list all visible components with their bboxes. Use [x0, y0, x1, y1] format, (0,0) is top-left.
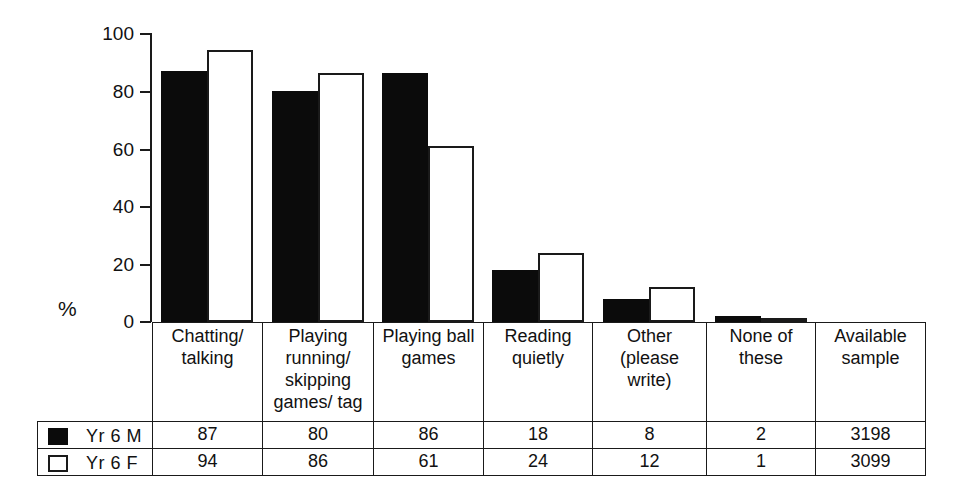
legend-entry-yr6f: Yr 6 F	[38, 449, 153, 476]
header-line: running/	[265, 348, 371, 370]
header-line: (please	[595, 348, 704, 370]
header-line: Reading	[486, 326, 590, 348]
series-label: Yr 6 F	[86, 453, 138, 473]
bar-yr-6-m-1	[272, 91, 318, 322]
header-line: Chatting/	[155, 326, 260, 348]
cell-value: 8	[593, 422, 707, 449]
column-header-other: Other (please write)	[593, 323, 707, 422]
series-label: Yr 6 M	[86, 426, 142, 446]
header-line: talking	[155, 348, 260, 370]
header-line: skipping	[265, 370, 371, 392]
bar-yr-6-f-2	[428, 146, 474, 322]
cell-value: 24	[484, 449, 593, 476]
y-tick-60	[140, 149, 151, 151]
table-header-row: Chatting/ talking Playing running/ skipp…	[38, 323, 926, 422]
cell-value: 12	[593, 449, 707, 476]
y-axis-unit-label: %	[58, 297, 77, 321]
y-tick-label-20: 20	[88, 254, 134, 276]
bar-yr-6-m-3	[492, 270, 538, 322]
y-tick-40	[140, 206, 151, 208]
filled-square-icon	[48, 428, 68, 445]
column-header-available-sample: Available sample	[816, 323, 926, 422]
data-table: Chatting/ talking Playing running/ skipp…	[37, 322, 926, 476]
table-row: Yr 6 M 87 80 86 18 8 2 3198	[38, 422, 926, 449]
cell-value: 87	[153, 422, 263, 449]
plot-area	[152, 20, 925, 322]
cell-value: 2	[707, 422, 816, 449]
bar-yr-6-m-4	[603, 299, 649, 322]
cell-value: 3099	[816, 449, 926, 476]
cell-value: 1	[707, 449, 816, 476]
header-line: games/ tag	[265, 392, 371, 414]
bar-yr-6-f-0	[207, 50, 253, 322]
table-row: Yr 6 F 94 86 61 24 12 1 3099	[38, 449, 926, 476]
column-header-reading: Reading quietly	[484, 323, 593, 422]
y-tick-label-80: 80	[88, 81, 134, 103]
header-line: quietly	[486, 348, 590, 370]
bar-yr-6-m-2	[382, 73, 428, 322]
column-header-chatting: Chatting/ talking	[153, 323, 263, 422]
column-header-ball-games: Playing ball games	[374, 323, 484, 422]
cell-value: 3198	[816, 422, 926, 449]
column-header-none-of-these: None of these	[707, 323, 816, 422]
header-line: None of these	[709, 326, 813, 370]
cell-value: 80	[263, 422, 374, 449]
header-line: Playing ball	[376, 326, 481, 348]
cell-value: 18	[484, 422, 593, 449]
cell-value: 86	[374, 422, 484, 449]
y-tick-80	[140, 91, 151, 93]
y-tick-label-100: 100	[88, 23, 134, 45]
chart-figure: % 100 80 60 40 20 0 Chatting/	[0, 0, 955, 496]
cell-value: 94	[153, 449, 263, 476]
column-header-running-skipping: Playing running/ skipping games/ tag	[263, 323, 374, 422]
header-line: write)	[595, 370, 704, 392]
hollow-square-icon	[48, 455, 68, 472]
header-line: Playing	[265, 326, 371, 348]
cell-value: 86	[263, 449, 374, 476]
bar-yr-6-f-3	[538, 253, 584, 322]
y-tick-100	[140, 33, 151, 35]
cell-value: 61	[374, 449, 484, 476]
y-tick-label-40: 40	[88, 196, 134, 218]
header-line: Other	[595, 326, 704, 348]
bar-yr-6-f-1	[318, 73, 364, 322]
y-tick-20	[140, 264, 151, 266]
legend-entry-yr6m: Yr 6 M	[38, 422, 153, 449]
bar-yr-6-f-4	[649, 287, 695, 322]
header-line: games	[376, 348, 481, 370]
legend-spacer-cell	[38, 323, 153, 422]
header-line: sample	[818, 348, 923, 370]
header-line: Available	[818, 326, 923, 348]
bar-yr-6-m-0	[161, 71, 207, 322]
y-tick-label-60: 60	[88, 139, 134, 161]
